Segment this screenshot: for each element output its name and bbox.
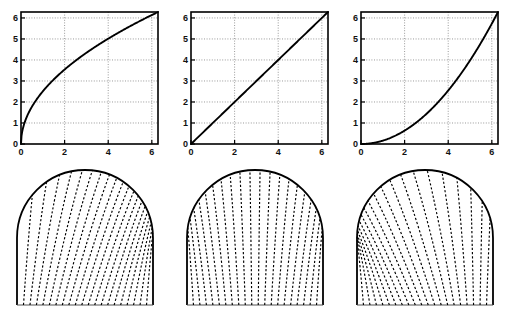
x-tick-label: 0 [358, 147, 363, 157]
y-tick-label: 0 [13, 139, 18, 149]
dome-grid-line [56, 170, 93, 305]
y-tick-label: 6 [183, 13, 188, 23]
y-tick-label: 0 [353, 139, 358, 149]
dome-grid-line [357, 230, 382, 305]
x-tick-label: 2 [402, 147, 407, 157]
y-tick-label: 2 [13, 97, 18, 107]
y-tick-label: 3 [353, 76, 358, 86]
dome-grid-line [271, 175, 280, 305]
dome-grid-line [95, 191, 134, 305]
y-tick-label: 5 [353, 34, 358, 44]
dome-grid-line [36, 175, 59, 305]
dome-grid-line [357, 238, 363, 305]
x-tick-label: 6 [489, 147, 494, 157]
dome-grid-line [230, 175, 239, 305]
dome-grid-line [88, 186, 129, 305]
dome-outline [187, 170, 323, 305]
y-tick-label: 4 [13, 55, 18, 65]
panel-top-middle: 01234560246 [170, 0, 340, 160]
dome-grid-line [358, 226, 389, 305]
x-tick-label: 0 [188, 147, 193, 157]
y-tick-label: 0 [183, 139, 188, 149]
dome-grid-line [101, 196, 138, 305]
dome-grid-line [69, 175, 110, 305]
y-tick-label: 5 [183, 34, 188, 44]
data-curve [361, 12, 498, 144]
y-tick-label: 3 [183, 76, 188, 86]
dome-grid-line [240, 172, 245, 305]
x-tick-label: 4 [106, 147, 111, 157]
y-tick-label: 6 [13, 13, 18, 23]
dome-grid-line [199, 200, 213, 305]
dome-grid-line [480, 201, 482, 305]
dome-grid-line [265, 172, 270, 305]
dome-grid-line [374, 194, 422, 305]
dome-grid-line [121, 212, 148, 305]
x-tick-label: 6 [319, 147, 324, 157]
panel-top-right: 01234560246 [340, 0, 510, 160]
y-tick-label: 2 [353, 97, 358, 107]
dome-grid-line [221, 179, 232, 305]
x-tick-label: 2 [62, 147, 67, 157]
y-tick-label: 1 [353, 118, 358, 128]
dome-grid-line [258, 170, 260, 305]
y-tick-label: 3 [13, 76, 18, 86]
y-tick-label: 2 [183, 97, 188, 107]
dome-grid-line [49, 170, 82, 305]
dome-grid-line [304, 209, 317, 306]
dome-grid-line [413, 171, 447, 305]
y-tick-label: 4 [183, 55, 188, 65]
y-tick-label: 6 [353, 13, 358, 23]
dome-grid-line [108, 201, 142, 305]
dome-grid-line [114, 206, 145, 305]
dome-grid-line [442, 172, 461, 305]
diagram-bottom-left [0, 158, 170, 323]
dome-grid-line [82, 182, 123, 305]
dome-grid-line [205, 192, 219, 305]
dome-grid-line [190, 218, 200, 305]
figure-root: 01234560246 01234560246 01234560246 [0, 0, 510, 323]
y-tick-label: 4 [353, 55, 358, 65]
x-tick-label: 4 [446, 147, 451, 157]
dome-grid-line [310, 218, 320, 305]
dome-grid-line [75, 178, 116, 305]
diagram-bottom-right [340, 158, 510, 323]
data-curve [191, 12, 328, 144]
diagram-bottom-middle [170, 158, 340, 323]
dome-grid-line [291, 192, 305, 305]
plot-top-left: 01234560246 [0, 0, 170, 160]
dome-grid-line [471, 188, 474, 305]
dome-grid-line [194, 209, 207, 306]
dome-grid-line [30, 182, 47, 305]
dome-grid-line [188, 228, 194, 305]
y-tick-label: 1 [183, 118, 188, 128]
plot-top-right: 01234560246 [340, 0, 510, 160]
dome-grid-line [317, 228, 323, 305]
dome-grid-line [381, 186, 429, 305]
x-tick-label: 0 [18, 147, 23, 157]
dome-grid-line [147, 233, 153, 305]
dome-grid-line [487, 218, 491, 305]
panel-bottom-left [0, 158, 170, 323]
y-tick-label: 1 [13, 118, 18, 128]
dome-grid-line [297, 200, 311, 305]
dome-grid-line [250, 170, 252, 305]
dome-grid-line [134, 222, 152, 305]
y-tick-label: 5 [13, 34, 18, 44]
dome-grid-line [278, 179, 289, 305]
x-tick-label: 4 [276, 147, 281, 157]
data-curve [21, 12, 158, 144]
dome-grid-line [140, 228, 152, 305]
x-tick-label: 2 [232, 147, 237, 157]
plot-frame [361, 12, 498, 144]
panel-bottom-middle [170, 158, 340, 323]
panel-top-left: 01234560246 [0, 0, 170, 160]
dome-outline [17, 170, 153, 305]
plot-top-middle: 01234560246 [170, 0, 340, 160]
dome-grid-line [127, 217, 150, 305]
dome-grid-line [359, 221, 396, 305]
dome-grid-line [23, 195, 32, 305]
panel-bottom-right [340, 158, 510, 323]
x-tick-label: 6 [149, 147, 154, 157]
plot-frame [21, 12, 158, 144]
